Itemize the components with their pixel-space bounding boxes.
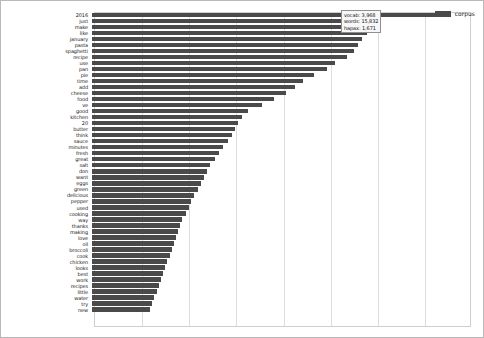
hover-tooltip: vocab: 3,968 words: 15,832 hapax: 1,671 (341, 10, 381, 33)
tooltip-words: words: 15,832 (344, 18, 378, 24)
bar[interactable] (92, 91, 286, 96)
bar[interactable] (92, 37, 362, 42)
bar[interactable] (92, 289, 157, 294)
legend-swatch-icon (435, 11, 451, 17)
bar[interactable] (92, 205, 189, 210)
bar[interactable] (92, 169, 207, 174)
legend-item-corpus: corpus (455, 10, 475, 17)
bar[interactable] (92, 103, 262, 108)
bar[interactable] (92, 109, 248, 114)
bar[interactable] (92, 217, 182, 222)
bar[interactable] (92, 301, 152, 306)
bar[interactable] (92, 211, 186, 216)
bar[interactable] (92, 157, 215, 162)
bar[interactable] (92, 43, 358, 48)
bar[interactable] (92, 151, 219, 156)
bar-track (91, 307, 484, 313)
bar[interactable] (92, 49, 354, 54)
bar[interactable] (92, 115, 242, 120)
bar[interactable] (92, 19, 374, 24)
bar[interactable] (92, 163, 210, 168)
bar[interactable] (92, 121, 238, 126)
bar-row[interactable]: new (1, 307, 484, 313)
bar[interactable] (92, 175, 204, 180)
bar[interactable] (92, 31, 367, 36)
bar[interactable] (92, 253, 170, 258)
bar[interactable] (92, 277, 161, 282)
bar[interactable] (92, 199, 191, 204)
bar[interactable] (92, 145, 223, 150)
bar[interactable] (92, 13, 444, 18)
chart-window: 2016justmakelikejanuarypastaspaghettirec… (0, 0, 484, 338)
bar[interactable] (92, 55, 347, 60)
bar[interactable] (92, 181, 201, 186)
bar[interactable] (92, 295, 154, 300)
bar[interactable] (92, 79, 303, 84)
bar[interactable] (92, 193, 194, 198)
bar[interactable] (92, 247, 172, 252)
bar[interactable] (92, 97, 274, 102)
bar[interactable] (92, 283, 159, 288)
bar[interactable] (92, 67, 327, 72)
bar[interactable] (92, 139, 228, 144)
bar[interactable] (92, 25, 371, 30)
bar[interactable] (92, 73, 314, 78)
bar[interactable] (92, 265, 165, 270)
bar[interactable] (92, 133, 232, 138)
chart-legend: corpus (435, 10, 475, 17)
bar[interactable] (92, 241, 174, 246)
bar[interactable] (92, 223, 180, 228)
bar-category-label: new (1, 307, 91, 313)
bar[interactable] (92, 61, 335, 66)
tooltip-hapax: hapax: 1,671 (344, 25, 378, 31)
bar[interactable] (92, 307, 150, 312)
bar[interactable] (92, 259, 167, 264)
bar[interactable] (92, 235, 176, 240)
bar-rows: 2016justmakelikejanuarypastaspaghettirec… (1, 12, 484, 327)
bar[interactable] (92, 229, 178, 234)
bar[interactable] (92, 127, 235, 132)
bar[interactable] (92, 271, 163, 276)
bar[interactable] (92, 85, 295, 90)
bar[interactable] (92, 187, 198, 192)
